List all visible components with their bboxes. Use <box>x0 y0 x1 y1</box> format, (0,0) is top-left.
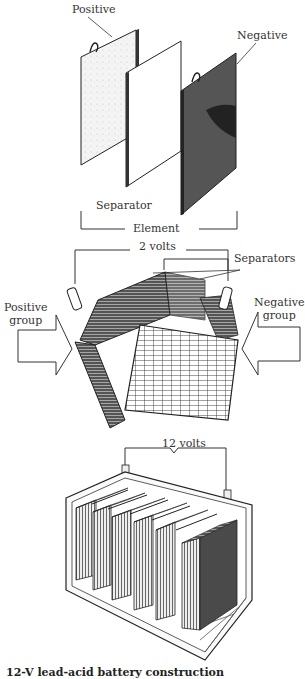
cell-panel <box>18 250 300 428</box>
label-positive-group: Positive group <box>4 301 47 327</box>
label-12-volts: 12 volts <box>162 437 206 450</box>
label-separators: Separators <box>234 252 295 265</box>
positive-post <box>66 287 82 311</box>
figure-caption: 12-V lead-acid battery construction <box>6 666 224 679</box>
label-negative-group: Negative group <box>254 296 304 322</box>
label-separator: Separator <box>96 199 152 212</box>
label-negative-plate: Negative <box>237 29 287 42</box>
battery-panel <box>66 448 252 660</box>
label-2-volts: 2 volts <box>139 240 176 253</box>
label-element: Element <box>133 222 180 235</box>
element-panel <box>81 17 256 229</box>
label-positive-plate: Positive <box>72 3 115 16</box>
negative-plate <box>181 53 236 215</box>
